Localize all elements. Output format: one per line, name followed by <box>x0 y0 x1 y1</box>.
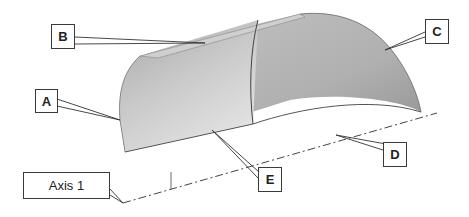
callout-c: C <box>425 19 449 44</box>
axis-label: Axis 1 <box>23 172 110 199</box>
callout-d: D <box>383 142 407 167</box>
callout-b: B <box>51 24 75 49</box>
callout-e: E <box>258 167 282 192</box>
curved-surface <box>120 13 421 152</box>
callout-a: A <box>35 89 58 113</box>
